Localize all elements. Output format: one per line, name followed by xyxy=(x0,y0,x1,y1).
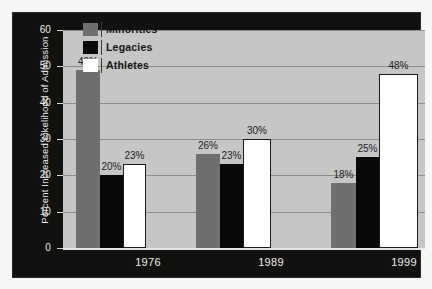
bar-athletes-1989 xyxy=(243,139,271,248)
bar-value-label: 23% xyxy=(122,151,148,161)
y-tick-label: 40 xyxy=(27,98,51,108)
x-tick-label-1976: 1976 xyxy=(118,256,178,268)
y-tick-label: 30 xyxy=(27,134,51,144)
y-tick-label: 60 xyxy=(27,25,51,35)
legend-label: Minorities xyxy=(106,24,158,35)
bar-athletes-1999 xyxy=(379,74,418,248)
bar-value-label: 20% xyxy=(99,162,125,172)
y-tick-label: 20 xyxy=(27,170,51,180)
legend-swatch-legacies xyxy=(83,41,98,54)
bar-minorities-1989 xyxy=(196,154,220,248)
bar-value-label: 30% xyxy=(244,126,270,136)
bar-legacies-1989 xyxy=(220,164,243,248)
bar-minorities-1999 xyxy=(331,183,356,248)
x-tick-label-1989: 1989 xyxy=(241,256,301,268)
bar-value-label: 48% xyxy=(386,61,412,71)
legend-label: Athletes xyxy=(106,60,149,71)
legend-separator xyxy=(101,22,102,37)
chart-panel: Percent Increased Likelihood of Admissio… xyxy=(13,13,420,277)
bar-legacies-1999 xyxy=(356,157,379,248)
gridline xyxy=(63,103,425,104)
legend-swatch-minorities xyxy=(83,23,98,36)
bar-value-label: 23% xyxy=(219,151,245,161)
y-tick-label: 50 xyxy=(27,61,51,71)
y-tick-label: 0 xyxy=(27,243,51,253)
bar-minorities-1976 xyxy=(76,70,100,248)
y-tick-label: 10 xyxy=(27,207,51,217)
bar-value-label: 25% xyxy=(355,144,381,154)
legend-swatch-athletes xyxy=(83,59,98,72)
bar-legacies-1976 xyxy=(100,175,123,248)
x-axis-baseline xyxy=(63,248,425,250)
x-tick-label-1999: 1999 xyxy=(374,256,432,268)
legend-separator xyxy=(101,58,102,73)
chart-figure: Percent Increased Likelihood of Admissio… xyxy=(0,0,432,289)
bar-athletes-1976 xyxy=(123,164,146,248)
legend-label: Legacies xyxy=(106,42,153,53)
legend-separator xyxy=(101,40,102,55)
bar-value-label: 18% xyxy=(331,170,357,180)
bar-value-label: 26% xyxy=(195,141,221,151)
